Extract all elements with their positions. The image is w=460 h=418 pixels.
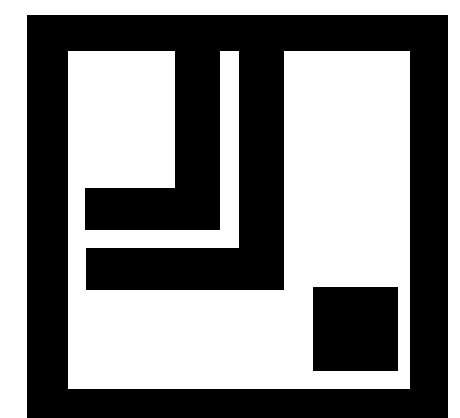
small-square: [313, 287, 398, 371]
geometric-logo: [0, 0, 460, 418]
inner-l-horizontal-bar: [85, 188, 220, 230]
outer-l-horizontal-bar: [86, 248, 284, 290]
